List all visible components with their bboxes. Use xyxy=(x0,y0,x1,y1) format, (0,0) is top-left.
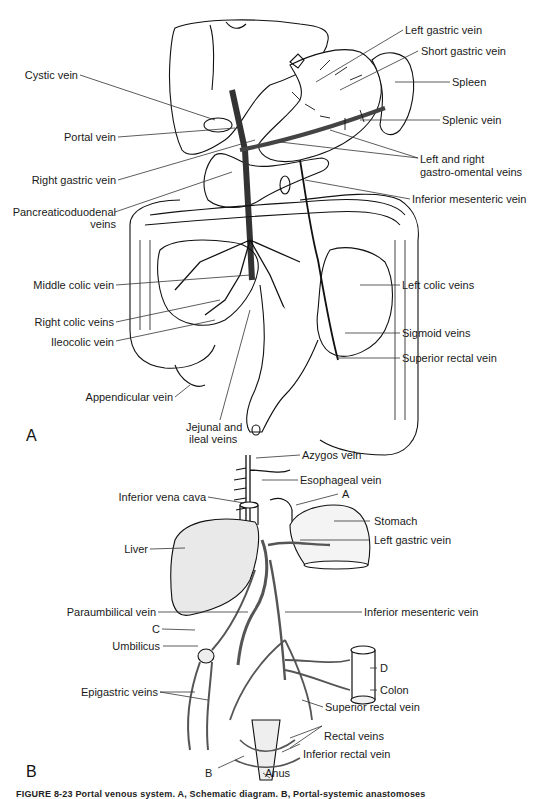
label-marker-a: A xyxy=(342,488,349,500)
label-cystic-vein: Cystic vein xyxy=(0,69,78,81)
inferior-mesenteric-vein-b xyxy=(270,560,285,680)
label-left-gastric-vein-a: Left gastric vein xyxy=(405,24,482,36)
label-inferior-rectal-vein: Inferior rectal vein xyxy=(303,748,390,760)
umbilicus-marker xyxy=(198,649,214,663)
label-left-gastric-vein-b: Left gastric vein xyxy=(374,534,451,546)
label-epigastric-veins: Epigastric veins xyxy=(0,686,158,698)
label-jejunal-line1: Jejunal and xyxy=(186,421,242,433)
label-right-colic-veins: Right colic veins xyxy=(0,316,114,328)
label-colon: Colon xyxy=(380,684,409,696)
label-superior-rectal-vein-a: Superior rectal vein xyxy=(402,352,497,364)
label-left-colic-veins: Left colic veins xyxy=(402,279,474,291)
label-middle-colic-vein: Middle colic vein xyxy=(0,279,114,291)
label-jejunal-line2: ileal veins xyxy=(189,433,237,445)
label-inferior-vena-cava: Inferior vena cava xyxy=(0,491,206,503)
label-right-gastric-vein: Right gastric vein xyxy=(0,174,116,186)
panel-label-a: A xyxy=(26,427,37,445)
label-esophageal-vein: Esophageal vein xyxy=(300,474,381,486)
label-liver: Liver xyxy=(0,543,148,555)
label-portal-vein: Portal vein xyxy=(0,131,116,143)
label-gastro-omental-line2: gastro-omental veins xyxy=(420,166,522,178)
label-anus: Anus xyxy=(265,767,290,779)
panel-label-b: B xyxy=(26,763,37,781)
colon-b xyxy=(352,650,375,700)
label-inferior-mesenteric-vein-b: Inferior mesenteric vein xyxy=(364,606,478,618)
label-gastro-omental-line1: Left and right xyxy=(420,153,484,165)
panel-a-illustration xyxy=(130,20,418,455)
label-rectal-veins: Rectal veins xyxy=(324,730,384,742)
label-short-gastric-vein: Short gastric vein xyxy=(421,45,506,57)
label-splenic-vein: Splenic vein xyxy=(442,114,501,126)
label-appendicular-vein: Appendicular vein xyxy=(0,391,173,403)
label-marker-c: C xyxy=(0,623,160,635)
label-stomach: Stomach xyxy=(374,515,417,527)
label-sigmoid-veins: Sigmoid veins xyxy=(402,327,470,339)
label-marker-b: B xyxy=(205,767,212,779)
figure-caption: FIGURE 8-23 Portal venous system. A, Sch… xyxy=(16,789,426,799)
label-marker-d: D xyxy=(380,662,388,674)
epigastric-veins xyxy=(188,662,212,750)
azygos-vein xyxy=(246,455,290,530)
label-azygos-vein: Azygos vein xyxy=(302,449,361,461)
rectum-a xyxy=(247,285,318,432)
label-umbilicus: Umbilicus xyxy=(0,640,160,652)
stomach-b xyxy=(290,505,370,565)
label-ileocolic-vein: Ileocolic vein xyxy=(0,336,114,348)
label-paraumbilical-vein: Paraumbilical vein xyxy=(0,606,156,618)
liver-b xyxy=(171,519,259,615)
label-pancreaticoduodenal-line1: Pancreaticoduodenal xyxy=(0,206,116,218)
label-pancreaticoduodenal-line2: veins xyxy=(0,218,116,230)
label-superior-rectal-vein-b: Superior rectal vein xyxy=(325,701,420,713)
label-inferior-mesenteric-vein-a: Inferior mesenteric vein xyxy=(412,193,526,205)
label-spleen: Spleen xyxy=(452,76,486,88)
